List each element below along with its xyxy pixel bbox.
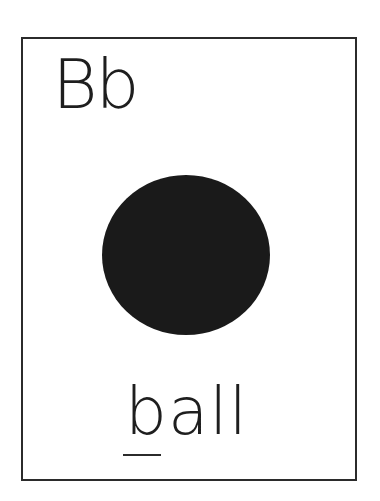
first-letter-underline xyxy=(123,454,161,456)
word-label: ball xyxy=(125,379,248,445)
ball-icon xyxy=(102,175,270,335)
letter-heading: Bb xyxy=(52,51,137,119)
flashcard: Bb ball xyxy=(21,37,357,481)
